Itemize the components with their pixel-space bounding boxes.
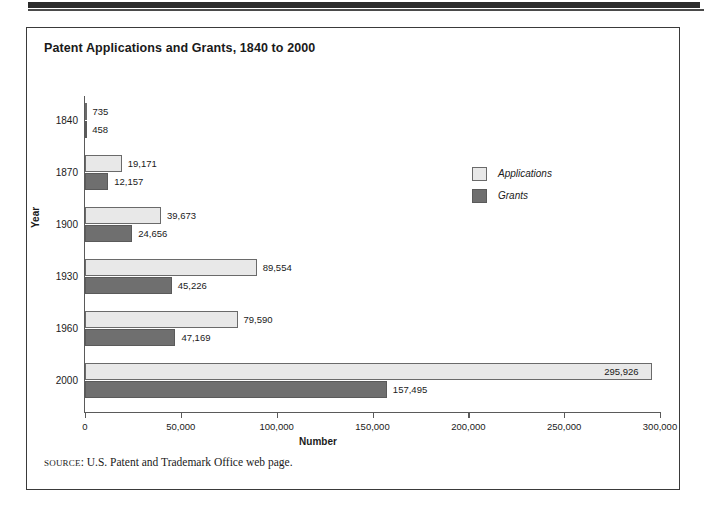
x-tick-label-300000: 300,000: [643, 421, 677, 432]
x-tick-150000: [373, 413, 374, 418]
bar-value-label-grants-1900: 24,656: [138, 225, 167, 242]
bar-value-label-grants-2000: 157,495: [393, 381, 427, 398]
y-tick-label-1900: 1900: [38, 219, 78, 230]
x-tick-label-250000: 250,000: [547, 421, 581, 432]
x-tick-250000: [564, 413, 565, 418]
y-tick-label-1870: 1870: [38, 167, 78, 178]
bar-applications-1870: [85, 155, 122, 172]
page-top-rule: [28, 2, 700, 8]
x-axis-title-text: Number: [299, 436, 337, 447]
bar-applications-1900: [85, 207, 161, 224]
bar-value-label-applications-1840: 735: [92, 103, 108, 120]
bar-grants-2000: [85, 381, 387, 398]
bar-value-label-grants-1870: 12,157: [114, 173, 143, 190]
y-tick-label-1960: 1960: [38, 323, 78, 334]
source-label: SOURCE: [44, 458, 81, 468]
bar-value-label-grants-1930: 45,226: [178, 277, 207, 294]
x-tick-label-50000: 50,000: [166, 421, 195, 432]
bar-grants-1870: [85, 173, 108, 190]
legend-swatch-applications: [472, 167, 487, 181]
bar-grants-1840: [85, 121, 87, 138]
source-note: SOURCE: U.S. Patent and Trademark Office…: [44, 456, 293, 468]
chart-legend: Applications Grants: [472, 164, 552, 208]
bar-applications-1840: [85, 103, 87, 120]
bar-value-label-grants-1840: 458: [92, 121, 108, 138]
x-axis-title: Number: [0, 436, 708, 447]
chart-title: Patent Applications and Grants, 1840 to …: [44, 41, 315, 55]
y-tick-label-2000: 2000: [38, 375, 78, 386]
bar-grants-1930: [85, 277, 172, 294]
legend-item-grants: Grants: [472, 186, 552, 205]
bar-applications-1960: [85, 311, 238, 328]
bar-value-label-applications-2000: 295,926: [604, 363, 638, 380]
legend-item-applications: Applications: [472, 164, 552, 183]
bar-grants-1960: [85, 329, 175, 346]
x-tick-label-100000: 100,000: [259, 421, 293, 432]
page-top-rule-thin: [28, 9, 704, 11]
bar-applications-1930: [85, 259, 257, 276]
x-tick-300000: [660, 413, 661, 418]
x-tick-label-0: 0: [82, 421, 87, 432]
bar-value-label-applications-1960: 79,590: [244, 311, 273, 328]
x-tick-50000: [181, 413, 182, 418]
source-text: : U.S. Patent and Trademark Office web p…: [81, 456, 293, 468]
legend-label-applications: Applications: [498, 168, 552, 179]
legend-label-grants: Grants: [498, 190, 528, 201]
y-tick-label-1840: 1840: [38, 115, 78, 126]
bar-value-label-grants-1960: 47,169: [181, 329, 210, 346]
legend-swatch-grants: [472, 189, 487, 203]
y-tick-label-1930: 1930: [38, 271, 78, 282]
bar-value-label-applications-1870: 19,171: [128, 155, 157, 172]
x-tick-100000: [277, 413, 278, 418]
x-tick-label-150000: 150,000: [355, 421, 389, 432]
x-tick-200000: [468, 413, 469, 418]
bar-value-label-applications-1930: 89,554: [263, 259, 292, 276]
bar-applications-2000: [85, 363, 652, 380]
x-tick-label-200000: 200,000: [451, 421, 485, 432]
bar-grants-1900: [85, 225, 132, 242]
bar-value-label-applications-1900: 39,673: [167, 207, 196, 224]
x-tick-0: [85, 413, 86, 418]
